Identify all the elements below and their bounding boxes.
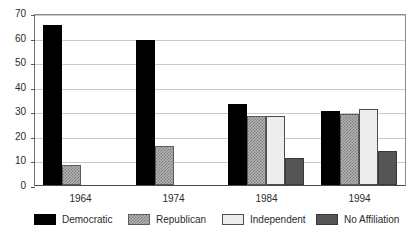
y-tick-label: 0 [20, 181, 26, 191]
bar-no-affiliation-1994[interactable] [378, 151, 397, 185]
x-axis: 1964197419841994 [34, 190, 406, 208]
bar-republican-1994[interactable] [340, 114, 359, 185]
x-tick-label-1984: 1984 [220, 190, 313, 208]
legend-label: Republican [156, 214, 206, 225]
y-tick-label: 50 [15, 58, 26, 68]
legend-swatch-icon [316, 214, 338, 225]
legend-item-republican[interactable]: Republican [128, 214, 222, 225]
legend-item-independent[interactable]: Independent [222, 214, 316, 225]
y-tick-mark [31, 15, 35, 16]
y-axis: 010203040506070 [0, 0, 30, 196]
bar-no-affiliation-1984[interactable] [285, 158, 304, 185]
legend-label: Democratic [62, 214, 113, 225]
chart-legend: DemocraticRepublicanIndependentNo Affili… [34, 209, 410, 229]
bar-republican-1964[interactable] [62, 165, 81, 185]
x-tick-label-1964: 1964 [34, 190, 127, 208]
bar-group-1974 [128, 15, 221, 185]
bar-groups [35, 15, 405, 185]
legend-item-democratic[interactable]: Democratic [34, 214, 128, 225]
bar-independent-1994[interactable] [359, 109, 378, 185]
plot-area [34, 14, 406, 186]
legend-item-no-affiliation[interactable]: No Affiliation [316, 214, 410, 225]
bar-group-1964 [35, 15, 128, 185]
y-tick-mark [31, 64, 35, 65]
legend-swatch-icon [128, 214, 150, 225]
bar-group-1984 [220, 15, 313, 185]
y-tick-mark [31, 40, 35, 41]
y-tick-mark [31, 162, 35, 163]
bar-democratic-1964[interactable] [43, 25, 62, 185]
x-tick-label-1994: 1994 [313, 190, 406, 208]
y-tick-mark [31, 138, 35, 139]
bar-independent-1984[interactable] [266, 116, 285, 185]
y-tick-mark [31, 113, 35, 114]
legend-label: No Affiliation [344, 214, 399, 225]
bar-group-1994 [313, 15, 406, 185]
y-tick-label: 10 [15, 156, 26, 166]
legend-label: Independent [250, 214, 306, 225]
y-tick-mark [31, 89, 35, 90]
bar-democratic-1994[interactable] [321, 111, 340, 185]
legend-swatch-icon [222, 214, 244, 225]
plot-wrapper: 010203040506070 [0, 0, 416, 196]
y-tick-label: 20 [15, 132, 26, 142]
y-tick-label: 30 [15, 107, 26, 117]
y-tick-mark [31, 187, 35, 188]
bar-democratic-1984[interactable] [228, 104, 247, 185]
y-tick-label: 70 [15, 9, 26, 19]
y-tick-label: 60 [15, 34, 26, 44]
bar-chart: 010203040506070 1964197419841994 Democra… [0, 0, 416, 235]
bar-republican-1974[interactable] [155, 146, 174, 185]
bar-democratic-1974[interactable] [136, 40, 155, 185]
y-tick-label: 40 [15, 83, 26, 93]
bar-republican-1984[interactable] [247, 116, 266, 185]
legend-swatch-icon [34, 214, 56, 225]
x-tick-label-1974: 1974 [127, 190, 220, 208]
